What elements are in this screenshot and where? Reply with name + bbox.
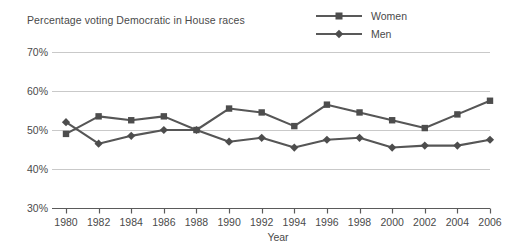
x-axis-tick-label: 2006 <box>470 216 510 228</box>
y-axis-tick-label: 70% <box>14 46 48 58</box>
chart-plot-svg <box>0 0 514 252</box>
y-axis-tick-label: 50% <box>14 124 48 136</box>
x-axis-title: Year <box>238 231 318 243</box>
chart-container: Percentage voting Democratic in House ra… <box>0 0 514 252</box>
plot-area: 70%60%50%40%30% 198019821984198619881990… <box>0 0 514 252</box>
y-axis-tick-label: 30% <box>14 202 48 214</box>
y-axis-tick-label: 60% <box>14 85 48 97</box>
y-axis-tick-label: 40% <box>14 163 48 175</box>
